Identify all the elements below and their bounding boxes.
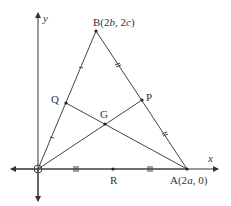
label-P: P [146, 91, 152, 103]
point-B [94, 29, 97, 32]
tick-single-2 [79, 67, 83, 68]
triangle-OAB [38, 31, 187, 169]
label-Q: Q [51, 93, 59, 105]
label-G: G [100, 108, 108, 120]
x-axis-label: x [207, 152, 213, 164]
point-Q [64, 101, 67, 104]
label-R: R [110, 174, 118, 186]
point-G [103, 122, 106, 125]
label-A: A(2a, 0) [170, 174, 208, 187]
point-P [140, 98, 143, 101]
point-R [111, 167, 114, 170]
y-axis-label: y [42, 12, 48, 24]
median-AQ [66, 103, 187, 169]
median-OP [38, 100, 142, 169]
triangle-medians-diagram: y x B(2b, 2c) P Q G R A(2a, 0) [0, 0, 231, 206]
label-B: B(2b, 2c) [93, 16, 135, 29]
point-A [185, 167, 188, 170]
